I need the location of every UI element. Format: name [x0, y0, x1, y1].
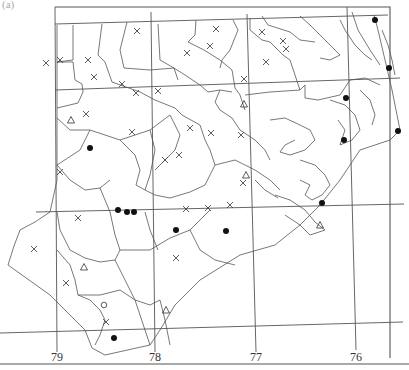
open-circle-marker: [101, 302, 107, 308]
triangle-marker: [317, 222, 324, 229]
cross-marker: [162, 157, 168, 163]
filled-circle-marker: [111, 335, 117, 341]
cross-marker: [91, 74, 97, 80]
markers: [31, 17, 401, 341]
cross-marker: [176, 152, 182, 158]
filled-circle-marker: [87, 145, 93, 151]
cross-marker: [238, 132, 244, 138]
cross-marker: [241, 76, 247, 82]
parallel-north: [55, 15, 388, 24]
meridian-76: [347, 7, 356, 350]
county-boundaries: [8, 12, 400, 355]
cross-marker: [240, 180, 246, 186]
cross-marker: [280, 38, 286, 44]
cross-marker: [213, 26, 219, 32]
cross-marker: [85, 57, 91, 63]
cross-marker: [57, 169, 63, 175]
triangle-marker: [243, 172, 250, 179]
cross-marker: [187, 125, 193, 131]
cross-marker: [259, 29, 265, 35]
filled-circle-marker: [319, 200, 325, 206]
filled-circle-marker: [124, 209, 130, 215]
graticule: [0, 7, 404, 352]
cross-marker: [263, 59, 269, 65]
cross-marker: [63, 280, 69, 286]
cross-marker: [119, 81, 125, 87]
triangle-marker: [163, 307, 170, 314]
longitude-label-76: 76: [350, 350, 362, 364]
triangle-marker: [81, 264, 88, 271]
cross-marker: [31, 246, 37, 252]
meridian-77: [247, 14, 256, 352]
parallel-3: [36, 204, 404, 212]
filled-circle-marker: [343, 95, 349, 101]
filled-circle-marker: [131, 209, 137, 215]
cross-marker: [75, 215, 81, 221]
cross-marker: [184, 50, 190, 56]
cross-marker: [43, 60, 49, 66]
cross-marker: [208, 130, 214, 136]
longitude-label-78: 78: [149, 350, 161, 364]
meridian-78: [151, 12, 155, 352]
longitude-labels: 79787776: [51, 350, 362, 364]
cross-marker: [129, 129, 135, 135]
cross-marker: [207, 43, 213, 49]
filled-circle-marker: [395, 128, 401, 134]
longitude-label-79: 79: [51, 350, 63, 364]
filled-circle-marker: [386, 65, 392, 71]
cross-marker: [155, 88, 161, 94]
cross-marker: [283, 46, 289, 52]
cross-marker: [134, 28, 140, 34]
cross-marker: [227, 202, 233, 208]
cross-marker: [173, 255, 179, 261]
filled-circle-marker: [115, 207, 121, 213]
longitude-label-77: 77: [250, 350, 262, 364]
parallel-2: [55, 78, 400, 90]
filled-circle-marker: [341, 137, 347, 143]
county-map: 79787776: [0, 0, 409, 370]
filled-circle-marker: [372, 17, 378, 23]
filled-circle-marker: [173, 227, 179, 233]
filled-circle-marker: [223, 228, 229, 234]
cross-marker: [83, 111, 89, 117]
parallel-south: [0, 322, 403, 333]
cross-marker: [103, 319, 109, 325]
triangle-marker: [68, 117, 75, 124]
